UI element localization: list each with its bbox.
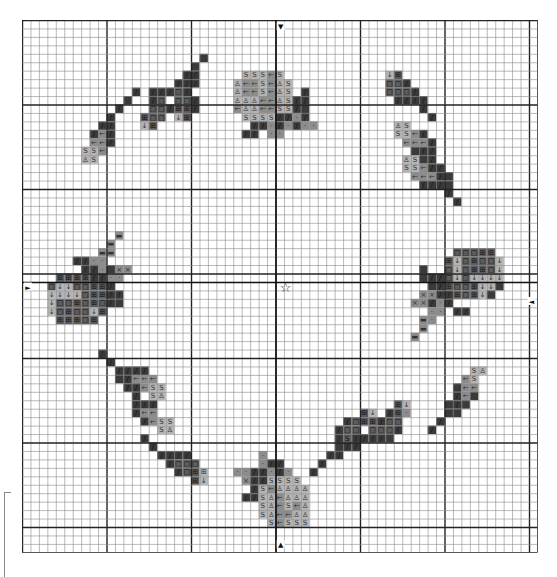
svg-text:♙: ♙ [251,97,257,105]
svg-text:⊞: ⊞ [370,418,376,426]
svg-text:▬: ▬ [99,249,106,257]
svg-text:S: S [252,71,257,79]
svg-text:S: S [404,130,409,138]
svg-text:S: S [261,71,266,79]
svg-text:S: S [286,502,291,510]
svg-text:♙: ♙ [234,97,240,105]
svg-text:S: S [294,477,299,485]
svg-text:♙: ♙ [277,97,283,105]
svg-text:←: ← [285,511,291,519]
svg-text:□: □ [158,105,165,113]
svg-text:⊞: ⊞ [99,291,105,299]
svg-text:↓: ↓ [454,274,460,282]
svg-text:□: □ [403,88,410,96]
svg-text:♙: ♙ [243,105,249,113]
svg-text:⊞: ⊞ [192,468,198,476]
svg-text:←: ← [463,384,469,392]
arrow-down-marker-icon: ▼ [278,23,284,31]
svg-text:S: S [252,114,257,122]
svg-text:♙: ♙ [251,105,257,113]
svg-text:↓: ↓ [480,283,486,291]
svg-text:□: □ [158,114,165,122]
svg-text:⊞: ⊞ [454,291,460,299]
svg-text:←: ← [471,384,477,392]
svg-text:S: S [269,114,274,122]
svg-text:⊞: ⊞ [99,308,105,316]
svg-text:↓: ↓ [488,274,494,282]
svg-text:↓: ↓ [66,291,72,299]
svg-text:←: ← [420,164,426,172]
svg-text:·: · [270,130,272,138]
svg-text:⊞: ⊞ [82,274,88,282]
svg-text:□: □ [395,80,402,88]
svg-text:□: □ [183,460,190,468]
svg-text:←: ← [268,80,274,88]
svg-text:⊞: ⊞ [395,71,401,79]
svg-text:▬: ▬ [116,232,123,240]
svg-text:↓: ↓ [387,71,393,79]
svg-text:·: · [101,257,103,265]
svg-text:♙: ♙ [158,392,164,400]
svg-text:□: □ [158,97,165,105]
arrow-up-marker-icon: ▲ [278,541,284,549]
svg-text:S: S [286,80,291,88]
svg-text:⊞: ⊞ [201,468,207,476]
svg-text:⊞: ⊞ [395,409,401,417]
svg-text:⊞: ⊞ [446,283,452,291]
svg-text:♙: ♙ [302,485,308,493]
svg-text:↓: ↓ [454,257,460,265]
svg-text:·: · [262,452,264,460]
svg-text:←: ← [277,519,283,527]
svg-text:□: □ [462,283,469,291]
svg-text:S: S [159,418,164,426]
svg-text:□: □ [462,266,469,274]
svg-text:♙: ♙ [234,80,240,88]
motif-left-flower: ▬▬▬▬∕∕··∕∕·××⊞⊞⊞⊞∕∕··□↓↓□□⊞⊞∕↓↓↓↓□⊞⊞∕∕↓□… [47,231,132,324]
svg-text:←: ← [251,80,257,88]
svg-text:S: S [269,519,274,527]
svg-text:S: S [472,375,477,383]
svg-text:·: · [304,122,306,130]
svg-text:▬: ▬ [420,316,427,324]
svg-text:□: □ [352,418,359,426]
svg-text:□: □ [175,460,182,468]
svg-text:♙: ♙ [234,88,240,96]
svg-text:S: S [261,485,266,493]
svg-text:□: □ [57,308,64,316]
svg-text:←: ← [142,384,148,392]
svg-text:⊞: ⊞ [91,291,97,299]
page-margin-bracket [4,492,11,577]
svg-text:↓: ↓ [49,308,55,316]
svg-text:S: S [404,122,409,130]
svg-text:·: · [110,274,112,282]
svg-text:♙: ♙ [479,367,485,375]
svg-text:↓: ↓ [496,257,502,265]
svg-text:⊞: ⊞ [471,283,477,291]
svg-text:⊞: ⊞ [361,409,367,417]
svg-text:S: S [261,511,266,519]
svg-text:←: ← [268,105,274,113]
svg-text:←: ← [243,88,249,96]
svg-text:↓: ↓ [49,299,55,307]
svg-text:←: ← [463,392,469,400]
svg-text:←: ← [268,485,274,493]
svg-text:♙: ♙ [293,485,299,493]
svg-text:⊞: ⊞ [66,308,72,316]
svg-text:×: × [429,291,435,299]
svg-text:□: □ [471,249,478,257]
svg-text:↓: ↓ [496,274,502,282]
svg-text:⊞: ⊞ [471,266,477,274]
svg-text:S: S [244,114,249,122]
svg-text:←: ← [91,139,97,147]
svg-text:←: ← [277,502,283,510]
svg-text:⊞: ⊞ [184,105,190,113]
svg-text:□: □ [445,266,452,274]
svg-text:←: ← [404,139,410,147]
svg-text:←: ← [463,375,469,383]
svg-text:↓: ↓ [404,401,410,409]
svg-text:⊞: ⊞ [184,114,190,122]
svg-text:←: ← [150,375,156,383]
svg-text:·: · [296,114,298,122]
svg-text:←: ← [412,130,418,138]
svg-text:←: ← [243,80,249,88]
